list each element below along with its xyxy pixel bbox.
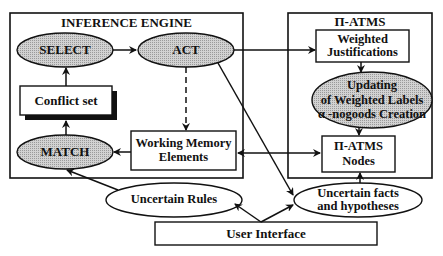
atms-title: Π-ATMS [288, 14, 432, 30]
arrow-act-to-facts [218, 63, 293, 195]
select-label: SELECT [17, 42, 113, 58]
updating-line2: of Weighted Labels [321, 93, 424, 108]
act-label: ACT [138, 42, 234, 58]
match-label: MATCH [17, 144, 113, 160]
weighted-justifications-line2: Justifications [327, 46, 398, 59]
updating-line1: Updating [347, 78, 397, 93]
uncertain-rules-label: Uncertain Rules [106, 192, 242, 208]
updating-labels-label: Updating of Weighted Labels α -nogoods C… [312, 73, 432, 127]
atms-nodes-line1: Π-ATMS [334, 139, 383, 154]
weighted-justifications-label: Weighted Justifications [316, 30, 409, 62]
atms-nodes-label: Π-ATMS Nodes [322, 136, 395, 172]
inference-engine-title: INFERENCE ENGINE [10, 15, 243, 31]
working-memory-line2: Elements [159, 151, 208, 164]
working-memory-label: Working Memory Elements [131, 131, 236, 170]
updating-line3: α -nogoods Creation [318, 107, 426, 122]
working-memory-line1: Working Memory [135, 137, 231, 150]
conflict-set-label: Conflict set [20, 86, 112, 115]
atms-nodes-line2: Nodes [342, 154, 375, 169]
uncertain-facts-line2: and hypotheses [317, 200, 399, 213]
user-interface-label: User Interface [155, 222, 377, 245]
uncertain-facts-label: Uncertain facts and hypotheses [294, 184, 422, 216]
arrow-ui-to-facts [261, 205, 293, 222]
arrow-rules-to-match [67, 170, 118, 190]
